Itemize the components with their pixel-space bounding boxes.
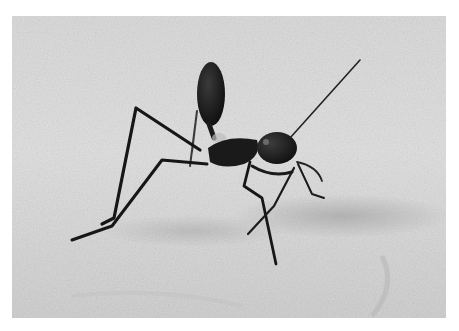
ant-photo-svg xyxy=(12,16,446,318)
leg-shadow xyxy=(102,215,282,247)
ant-eye xyxy=(263,139,269,145)
sand-background xyxy=(12,16,446,318)
ant-photograph xyxy=(12,16,446,318)
ant-gaster xyxy=(197,62,225,126)
